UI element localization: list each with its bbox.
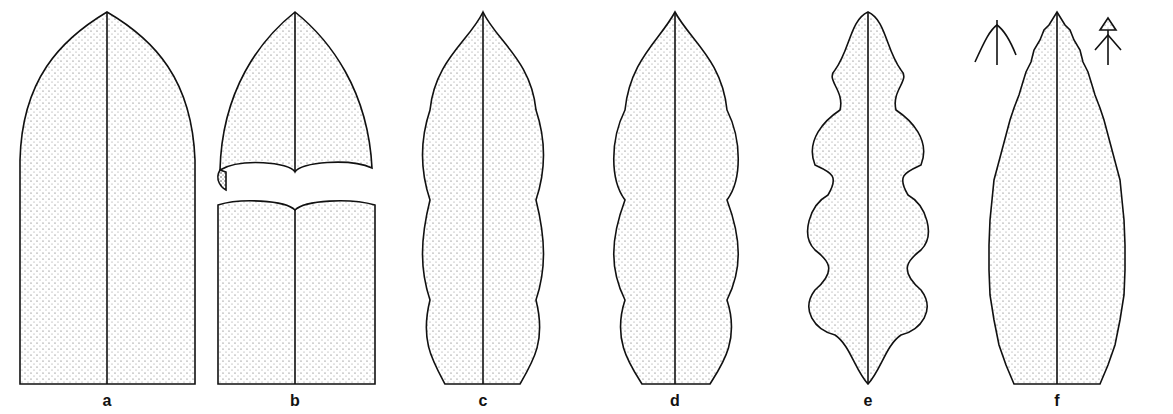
leaf-e (808, 12, 929, 384)
leaf-d (614, 12, 739, 384)
panel-label-b: b (290, 392, 300, 410)
leaf-a (20, 12, 195, 384)
leaf-f (989, 12, 1125, 384)
leaf-c (423, 12, 544, 384)
panel-label-a: a (103, 392, 112, 410)
leaf-b (218, 12, 375, 384)
leaf-figure: a b c d e f (0, 0, 1173, 414)
panel-label-f: f (1054, 392, 1059, 410)
leaf-drawings (0, 0, 1173, 414)
panel-label-c: c (479, 392, 488, 410)
panel-label-e: e (864, 392, 873, 410)
panel-label-d: d (670, 392, 680, 410)
